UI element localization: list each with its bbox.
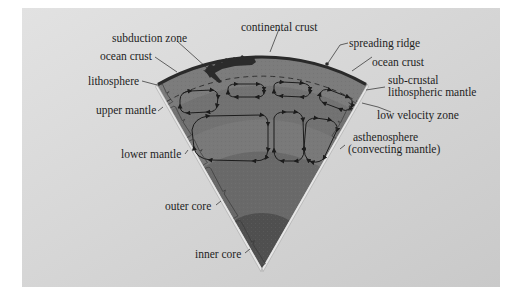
label-outer-core: outer core xyxy=(165,200,211,212)
label-ocean-crust-left: ocean crust xyxy=(100,50,153,62)
label-ocean-crust-right: ocean crust xyxy=(372,56,425,68)
label-low-velocity-zone: low velocity zone xyxy=(377,109,459,122)
label-sub-crustal: sub-crustal xyxy=(388,74,438,86)
label-spreading-ridge: spreading ridge xyxy=(349,37,420,50)
label-convecting-mantle: (convecting mantle) xyxy=(348,143,440,156)
label-continental-crust: continental crust xyxy=(241,21,318,33)
label-lower-mantle: lower mantle xyxy=(121,148,181,160)
label-inner-core: inner core xyxy=(195,248,241,260)
label-lithospheric-mantle: lithospheric mantle xyxy=(388,86,476,99)
label-upper-mantle: upper mantle xyxy=(96,104,156,117)
label-subduction-zone: subduction zone xyxy=(112,32,187,44)
label-lithosphere: lithosphere xyxy=(88,75,139,88)
earth-interior-diagram: subduction zone ocean crust lithosphere … xyxy=(0,0,516,295)
